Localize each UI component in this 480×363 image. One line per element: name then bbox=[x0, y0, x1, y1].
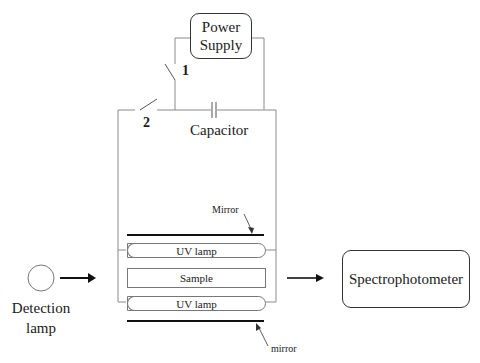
arrow-into-sample bbox=[60, 273, 96, 283]
detection-lamp-label: Detection lamp bbox=[10, 298, 72, 338]
switch-2-blade bbox=[140, 99, 157, 110]
switch-2-label: 2 bbox=[143, 116, 150, 130]
spectrophotometer-label: Spectrophotometer bbox=[349, 271, 463, 288]
capacitor-label: Capacitor bbox=[190, 123, 248, 138]
uv-lamp-bottom: UV lamp bbox=[127, 296, 266, 311]
mirror-bottom-pointer bbox=[256, 323, 268, 346]
mirror-bottom-label: mirror bbox=[271, 344, 297, 354]
uv-lamp-top-label: UV lamp bbox=[176, 245, 216, 257]
power-supply-label-line2: Supply bbox=[200, 36, 243, 54]
spectrophotometer-box: Spectrophotometer bbox=[342, 250, 470, 308]
power-supply-label-line1: Power bbox=[202, 18, 240, 36]
power-supply-box: Power Supply bbox=[190, 13, 252, 59]
sample-label: Sample bbox=[180, 272, 213, 284]
uv-lamp-bottom-label: UV lamp bbox=[176, 298, 216, 310]
switch-1-label: 1 bbox=[182, 64, 189, 78]
mirror-top-label: Mirror bbox=[212, 205, 239, 215]
detection-lamp-icon bbox=[28, 265, 54, 291]
diagram-canvas: Power Supply 1 2 Capacitor Mirror UV lam… bbox=[0, 0, 480, 363]
detection-lamp-label-line2: lamp bbox=[10, 318, 72, 338]
uv-lamp-top: UV lamp bbox=[127, 243, 266, 258]
detection-lamp-label-line1: Detection bbox=[10, 298, 72, 318]
sample-box: Sample bbox=[127, 268, 266, 288]
switch-1-blade bbox=[165, 64, 175, 80]
capacitor-symbol bbox=[212, 102, 216, 118]
mirror-top-pointer bbox=[244, 214, 254, 234]
arrow-to-spectrophotometer bbox=[287, 274, 324, 282]
